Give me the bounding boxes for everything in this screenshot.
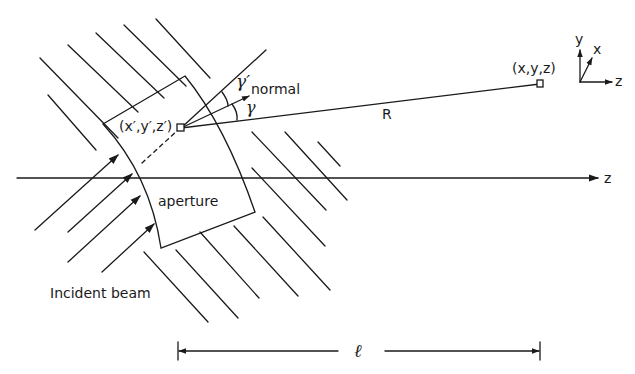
separation-label: ℓ	[354, 340, 362, 361]
gamma-arc	[232, 104, 237, 120]
incident-beam-arrows	[35, 155, 154, 272]
incident-beam-label: Incident beam	[50, 285, 151, 301]
gamma-label: γ	[246, 98, 256, 117]
source-point-label: (x′,y′,z′)	[119, 118, 172, 134]
gamma-prime-arc	[222, 92, 228, 106]
source-point-marker	[177, 124, 184, 131]
aperture-outline	[103, 76, 255, 248]
z-axis-label: z	[604, 170, 611, 186]
observation-point-marker	[537, 80, 543, 87]
dashed-projection	[142, 130, 178, 163]
observation-point-label: (x,y,z)	[512, 60, 556, 76]
aperture-label: aperture	[158, 193, 218, 209]
triad-x-label: x	[593, 41, 601, 57]
normal-label: normal	[251, 81, 300, 97]
triad-z-label: z	[615, 73, 622, 89]
R-line	[181, 84, 540, 128]
triad-y-label: y	[575, 31, 583, 47]
gamma-prime-label: γ′	[236, 71, 250, 91]
distance-R-label: R	[382, 106, 392, 122]
diagram-canvas: z (x′,y′,z′) (x,y,z) R normal γ′ γ apert…	[0, 0, 635, 374]
wavefront-lines-lower	[144, 132, 347, 322]
